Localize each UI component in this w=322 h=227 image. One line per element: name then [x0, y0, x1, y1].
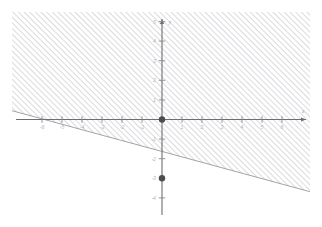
x-tick-label-3: 3: [221, 124, 224, 130]
x-tick-label--4: -4: [80, 124, 85, 130]
x-axis-label: x: [301, 108, 305, 114]
x-tick-label-2: 2: [200, 124, 204, 130]
x-tick-label-4: 4: [241, 124, 244, 130]
y-axis-label: y: [168, 19, 172, 25]
x-tick-label--3: -3: [100, 124, 105, 130]
y-tick-label-2: 2: [152, 77, 156, 83]
y-tick-label--4: -4: [151, 195, 156, 201]
shaded-inequality-region: [12, 12, 310, 192]
x-tick-label--5: -5: [60, 124, 65, 130]
x-tick-label--1: -1: [140, 124, 145, 130]
graph-screenshot: -6 -5 -4 -3 -2 -1 1 2 3 4 5 6 x: [0, 0, 322, 227]
y-tick-label-5: 5: [153, 19, 156, 25]
x-tick-label-6: 6: [281, 124, 284, 130]
x-tick-label--2: -2: [120, 124, 125, 130]
origin-point: [159, 116, 165, 122]
y-tick-label--1: -1: [151, 136, 156, 142]
y-tick-label-4: 4: [153, 38, 156, 44]
x-tick-label-1: 1: [181, 124, 184, 130]
x-tick-label-5: 5: [261, 124, 264, 130]
coordinate-plane-figure: -6 -5 -4 -3 -2 -1 1 2 3 4 5 6 x: [0, 0, 322, 227]
x-tick-label--6: -6: [40, 124, 45, 130]
y-tick-label-3: 3: [153, 58, 156, 64]
y-tick-label-1: 1: [153, 97, 156, 103]
y-tick-label--3: -3: [151, 175, 156, 181]
y-intercept-point: [159, 175, 165, 181]
y-tick-label--2: -2: [151, 156, 156, 162]
